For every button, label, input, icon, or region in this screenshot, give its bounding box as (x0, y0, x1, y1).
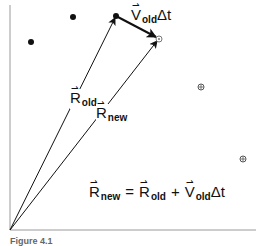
update-equation: ⇀Rnew=⇀Rold+⇀VoldΔt (89, 184, 225, 202)
particle-new-position (240, 156, 246, 162)
figure-caption: Figure 4.1 (10, 236, 53, 246)
r-new-label: ⇀Rnew (96, 104, 127, 124)
particle-new-position (156, 36, 162, 42)
particle-filled (70, 14, 76, 20)
particle-new-position (198, 84, 204, 90)
particle-filled (28, 39, 34, 45)
r-old-label: ⇀Rold (70, 89, 97, 109)
v-old-dt-label: ⇀VoldΔt (131, 7, 171, 25)
particle-filled (113, 13, 119, 19)
